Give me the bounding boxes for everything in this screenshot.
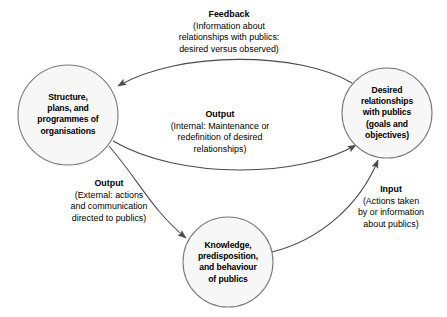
feedback-body-3: desired versus observed) [139,44,319,56]
knowledge-node-circle[interactable] [183,217,273,307]
output-external-body-3: directed to publics) [44,213,174,225]
input-body-1: (Actions taken [336,196,446,208]
output-internal-edge-label: Output (Internal: Maintenance or redefin… [131,109,309,155]
output-internal-body-1: (Internal: Maintenance or [131,121,309,133]
output-external-body-1: (External: actions [44,190,174,202]
output-internal-title: Output [131,109,309,121]
input-body-2: by or information [336,207,446,219]
output-external-title: Output [44,178,174,190]
input-body-3: about publics) [336,219,446,231]
feedback-body-1: (Information about [139,21,319,33]
output-internal-body-3: relationships) [131,144,309,156]
feedback-body-2: relationships with publics: [139,32,319,44]
input-edge-label: Input (Actions taken by or information a… [336,184,446,230]
input-title: Input [336,184,446,196]
desired-relationships-node-circle[interactable] [342,68,432,158]
output-external-body-2: and communication [44,201,174,213]
feedback-edge-label: Feedback (Information about relationship… [139,9,319,55]
output-external-edge-label: Output (External: actions and communicat… [44,178,174,224]
feedback-arrow [118,59,352,86]
output-internal-body-2: redefinition of desired [131,132,309,144]
structure-node-circle[interactable] [18,65,118,165]
feedback-title: Feedback [139,9,319,21]
systems-diagram: Structure, plans, and programmes of orga… [0,0,447,317]
